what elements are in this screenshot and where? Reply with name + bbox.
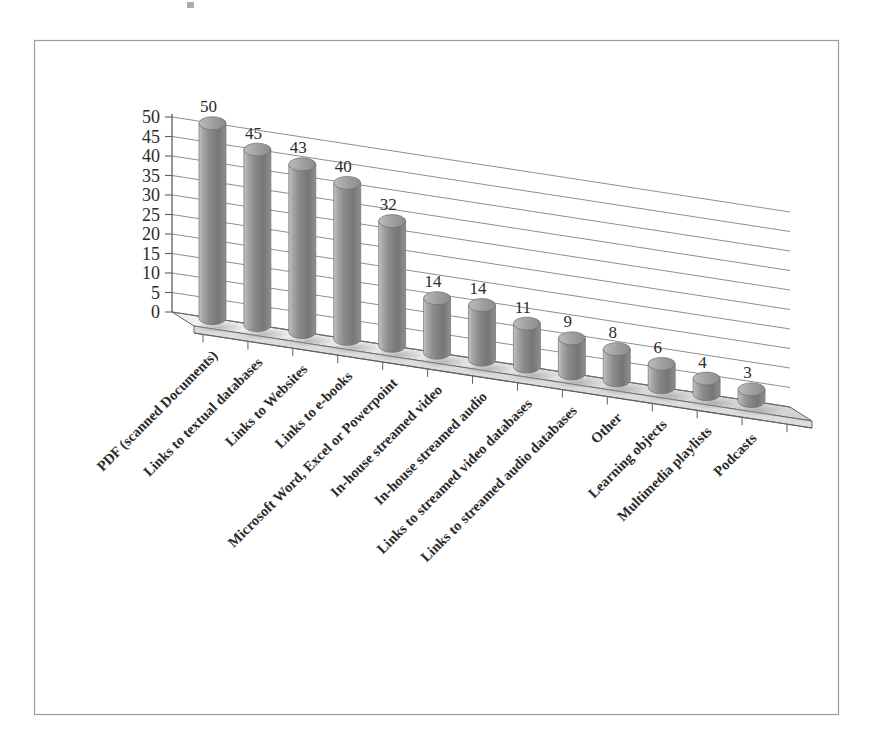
bar-chart-3d: 05101520253035404550 5045434032141411986… <box>0 0 872 746</box>
bar-value-label: 3 <box>743 363 752 382</box>
bar-cylinder <box>551 332 604 389</box>
y-axis-tick-label: 20 <box>142 224 160 244</box>
bar-top-cap <box>693 372 720 385</box>
bar-body <box>513 324 540 373</box>
bar-top-cap <box>289 158 316 171</box>
y-axis-tick-label: 40 <box>142 146 160 166</box>
bar-body <box>334 183 361 346</box>
y-axis-tick-label: 10 <box>142 263 160 283</box>
bar-body <box>289 164 316 338</box>
bar-cylinder <box>372 215 425 362</box>
category-label: Multimedia playlists <box>614 423 715 524</box>
category-label: Other <box>587 409 625 447</box>
bar-body <box>244 150 271 332</box>
bar-body <box>424 298 451 359</box>
bar-top-cap <box>199 117 226 130</box>
bar-top-cap <box>334 176 361 189</box>
bar-value-label: 8 <box>609 323 618 342</box>
bar-value-label: 4 <box>698 353 707 372</box>
y-axis-tick-label: 50 <box>142 107 160 127</box>
bar-body <box>199 123 226 325</box>
bar-value-label: 14 <box>470 279 488 298</box>
bar-cylinder <box>596 343 649 396</box>
bar-top-cap <box>469 299 496 312</box>
bar-cylinder <box>327 176 380 354</box>
bar-cylinder <box>731 383 784 417</box>
y-axis-tick-label: 45 <box>142 127 160 147</box>
bar-top-cap <box>558 332 585 345</box>
y-axis-tick-labels: 05101520253035404550 <box>142 107 160 322</box>
bar-top-cap <box>379 215 406 228</box>
y-axis-tick-label: 25 <box>142 205 160 225</box>
bar-series <box>192 117 784 417</box>
bar-cylinder <box>282 158 335 348</box>
bar-top-cap <box>603 343 630 356</box>
bar-value-label: 9 <box>564 312 573 331</box>
bar-cylinder <box>686 372 739 410</box>
y-axis-tick-label: 15 <box>142 244 160 264</box>
y-axis-tick-label: 30 <box>142 185 160 205</box>
category-label: Podcasts <box>710 430 760 480</box>
bar-body <box>379 221 406 352</box>
bar-top-cap <box>513 317 540 330</box>
y-axis-tick-label: 0 <box>151 302 160 322</box>
bar-value-label: 32 <box>380 195 397 214</box>
bar-value-label: 43 <box>290 138 307 157</box>
bar-value-label: 45 <box>245 124 262 143</box>
figure-canvas: 05101520253035404550 5045434032141411986… <box>0 0 872 746</box>
bar-top-cap <box>738 383 765 396</box>
bar-body <box>469 305 496 366</box>
y-axis-tick-label: 35 <box>142 166 160 186</box>
bar-value-label: 11 <box>515 298 531 317</box>
bar-top-cap <box>424 292 451 305</box>
bar-value-label: 6 <box>653 338 662 357</box>
bar-value-label: 14 <box>425 272 443 291</box>
bar-top-cap <box>244 143 271 156</box>
bar-cylinder <box>641 357 694 402</box>
y-axis-tick-label: 5 <box>151 283 160 303</box>
bar-cylinder <box>506 317 559 382</box>
bar-cylinder <box>192 117 245 334</box>
bar-top-cap <box>648 357 675 370</box>
bar-value-label: 40 <box>335 157 352 176</box>
bar-value-label: 50 <box>200 97 217 116</box>
